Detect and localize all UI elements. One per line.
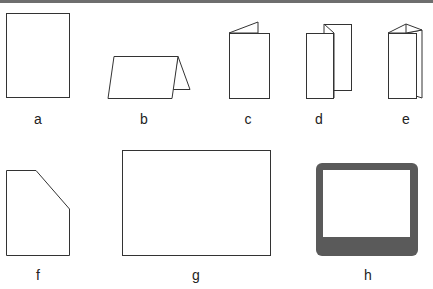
figure-d-gate-fold [307, 24, 352, 99]
figure-c-single-fold [229, 22, 270, 99]
label-h: h [358, 267, 378, 283]
label-d: d [309, 111, 329, 127]
figure-a-flat-sheet [7, 14, 70, 98]
label-g: g [186, 267, 206, 283]
figure-g-landscape-sheet [123, 151, 271, 256]
diagram-canvas [0, 0, 433, 289]
label-c: c [238, 111, 258, 127]
label-b: b [134, 111, 154, 127]
figure-e-tri-fold [388, 24, 422, 99]
figure-f-clipped-shape [7, 171, 70, 256]
label-e: e [396, 111, 416, 127]
figure-b-tent-fold [108, 57, 190, 99]
figure-h-frame [316, 163, 418, 256]
label-f: f [28, 267, 48, 283]
label-a: a [28, 111, 48, 127]
